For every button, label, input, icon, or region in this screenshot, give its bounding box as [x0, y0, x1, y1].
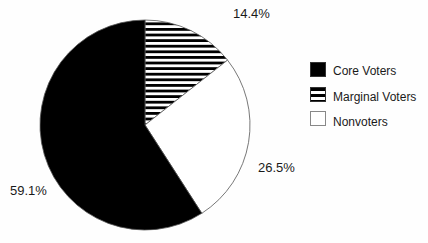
legend-swatch-nonvoters [310, 111, 326, 126]
label-marginal: 14.4% [233, 6, 270, 21]
legend-label-nonvoters: Nonvoters [333, 115, 388, 129]
label-nonvoters: 26.5% [258, 160, 295, 175]
legend-label-marginal: Marginal Voters [333, 90, 416, 104]
legend-swatch-marginal [310, 87, 326, 102]
label-core: 59.1% [10, 183, 47, 198]
legend-swatch-core [310, 62, 326, 77]
legend-label-core: Core Voters [333, 64, 396, 78]
